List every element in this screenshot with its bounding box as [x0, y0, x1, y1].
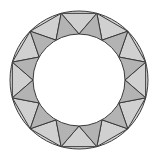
inner-hole-circle: [33, 34, 125, 126]
annulus-diagram: [0, 0, 161, 156]
